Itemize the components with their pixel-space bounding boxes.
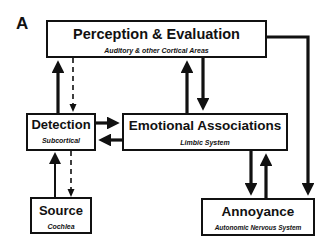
node-title: Emotional Associations: [124, 119, 286, 133]
arrow-detection-to-source-dashed: [68, 151, 75, 197]
node-detection: Detection Subcortical: [26, 113, 96, 151]
node-subtitle: Subcortical: [28, 137, 94, 144]
node-title: Perception & Evaluation: [48, 27, 265, 42]
node-title: Detection: [28, 118, 94, 131]
node-subtitle: Limbic System: [124, 139, 286, 146]
node-subtitle: Cochlea: [32, 223, 90, 230]
node-annoyance: Annoyance Autonomic Nervous System: [201, 198, 315, 236]
node-title: Annoyance: [203, 205, 313, 219]
arrow-perception-to-detection-dashed: [70, 58, 77, 112]
node-perception-evaluation: Perception & Evaluation Auditory & other…: [46, 20, 267, 58]
node-source: Source Cochlea: [30, 197, 92, 234]
node-subtitle: Auditory & other Cortical Areas: [48, 47, 265, 54]
node-emotional-associations: Emotional Associations Limbic System: [122, 113, 288, 151]
node-subtitle: Autonomic Nervous System: [203, 225, 313, 232]
node-title: Source: [32, 204, 90, 217]
